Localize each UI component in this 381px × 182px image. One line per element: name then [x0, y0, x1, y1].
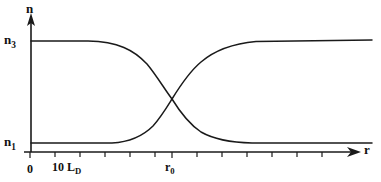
x-tick-tenld-base: 10 L: [52, 160, 75, 174]
x-tick-r0-subscript: 0: [170, 166, 174, 176]
x-axis-ticks: [30, 152, 322, 158]
curve-rising-density: [31, 40, 372, 143]
y-tick-label-n3: n3: [4, 33, 16, 50]
y-axis-title: n: [26, 2, 33, 15]
density-profile-figure: n r n3 n1 0 10 LD r0: [0, 0, 381, 182]
x-tick-label-origin: 0: [27, 163, 33, 175]
y-tick-n3-subscript: 3: [11, 40, 16, 50]
curve-decaying-density: [31, 41, 372, 143]
y-tick-label-n1: n1: [4, 135, 16, 152]
x-axis-title: r: [364, 143, 370, 156]
x-tick-tenld-subscript: D: [75, 166, 81, 176]
x-tick-label-ten-debye-lengths: 10 LD: [52, 161, 81, 176]
y-tick-n1-subscript: 1: [11, 142, 16, 152]
x-tick-label-r0: r0: [165, 161, 175, 176]
plot-canvas: [0, 0, 381, 182]
